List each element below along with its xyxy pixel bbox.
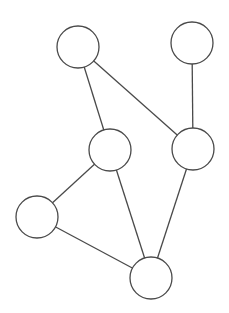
node-n4 <box>172 128 214 170</box>
node-n1 <box>57 26 99 68</box>
node-n5 <box>16 196 58 238</box>
node-n6 <box>130 257 172 299</box>
node-n3 <box>89 129 131 171</box>
nodes-layer <box>16 22 214 299</box>
node-n2 <box>171 22 213 64</box>
edge-n1-n4 <box>78 47 193 149</box>
graph-diagram <box>0 0 229 313</box>
graph-svg <box>0 0 229 313</box>
